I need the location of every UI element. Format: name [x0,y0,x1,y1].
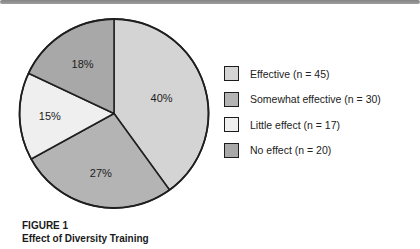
pie-slice-percent-label: 18% [72,58,94,70]
legend-swatch-icon [224,92,239,107]
legend-item: Little effect (n = 17) [224,117,381,132]
legend-item: Effective (n = 45) [224,66,381,81]
pie-slice-percent-label: 27% [90,167,112,179]
legend-label: Little effect (n = 17) [250,119,340,131]
pie-slice-percent-label: 15% [39,110,61,122]
legend-label: Somewhat effective (n = 30) [250,93,381,105]
legend-swatch-icon [224,117,239,132]
figure-caption-title: Effect of Diversity Training [22,233,149,246]
figure-caption: FIGURE 1 Effect of Diversity Training [22,220,149,245]
legend-label: No effect (n = 20) [250,144,331,156]
pie-slice-percent-label: 40% [151,92,173,104]
legend-swatch-icon [224,143,239,158]
figure-caption-label: FIGURE 1 [22,220,149,233]
figure-panel: 40%27%15%18% Effective (n = 45) Somewhat… [0,0,420,249]
legend-item: Somewhat effective (n = 30) [224,92,381,107]
legend-label: Effective (n = 45) [250,68,329,80]
chart-legend: Effective (n = 45) Somewhat effective (n… [224,66,381,168]
legend-item: No effect (n = 20) [224,143,381,158]
legend-swatch-icon [224,66,239,81]
